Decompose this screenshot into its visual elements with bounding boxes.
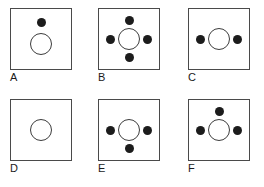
panel-e-dot-bottom	[125, 144, 134, 153]
panel-e-center-circle	[118, 119, 140, 141]
panel-e[interactable]: E	[98, 99, 160, 161]
panel-b-dot-bottom	[125, 53, 134, 62]
panel-b-dot-top	[125, 16, 134, 25]
panel-c-dot-right	[233, 35, 242, 44]
panel-f[interactable]: F	[188, 99, 250, 161]
panel-e-dot-left	[106, 126, 115, 135]
panel-f-dot-right	[233, 126, 242, 135]
panel-d-center-circle	[30, 119, 52, 141]
panel-b-label: B	[98, 71, 106, 83]
panel-c-label: C	[188, 71, 196, 83]
panel-e-label: E	[98, 162, 106, 174]
panel-c-dot-left	[196, 35, 205, 44]
panel-d-label: D	[10, 162, 18, 174]
panel-a-dot-top	[37, 18, 46, 27]
panel-b-dot-right	[143, 35, 152, 44]
panel-b[interactable]: B	[98, 8, 160, 70]
panel-e-dot-right	[143, 126, 152, 135]
panel-a-label: A	[10, 71, 18, 83]
panel-f-dot-left	[196, 126, 205, 135]
panel-a-center-circle	[30, 33, 52, 55]
panel-c-center-circle	[208, 28, 230, 50]
panel-c[interactable]: C	[188, 8, 250, 70]
panel-b-dot-left	[106, 35, 115, 44]
panel-d[interactable]: D	[10, 99, 72, 161]
panel-f-dot-top	[215, 107, 224, 116]
panel-f-label: F	[188, 162, 195, 174]
shape-matrix-figure: A B C D E F	[0, 0, 264, 187]
panel-b-center-circle	[118, 28, 140, 50]
panel-f-center-circle	[208, 119, 230, 141]
panel-a[interactable]: A	[10, 8, 72, 70]
